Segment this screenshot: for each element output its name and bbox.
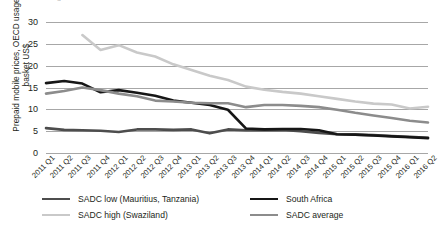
- y-tick-label-25: 25: [28, 39, 38, 48]
- legend-item[interactable]: SADC average: [250, 208, 343, 222]
- legend-swatch-line-icon: [42, 214, 70, 216]
- y-tick-label-5: 5: [33, 127, 38, 136]
- legend-swatch-line-icon: [250, 198, 278, 200]
- y-axis-tick-labels: 051015202530: [0, 22, 42, 153]
- legend-swatch-line-icon: [42, 198, 70, 200]
- y-tick-label-15: 15: [28, 83, 38, 92]
- legend-item-label: SADC low (Mauritius, Tanzania): [78, 194, 199, 204]
- legend-item[interactable]: SADC low (Mauritius, Tanzania): [42, 192, 199, 206]
- series-lines: [46, 22, 428, 153]
- legend-item[interactable]: South Africa: [250, 192, 332, 206]
- plot-area: [46, 22, 428, 153]
- y-tick-label-30: 30: [28, 18, 38, 27]
- y-tick-label-0: 0: [33, 149, 38, 158]
- legend-item-label: SADC average: [286, 210, 343, 220]
- x-axis-tick-labels: 2011 Q12011 Q22011 Q32011 Q42012 Q12012 …: [46, 154, 428, 194]
- y-tick-label-20: 20: [28, 61, 38, 70]
- y-tick-label-10: 10: [28, 105, 38, 114]
- chart-legend: SADC low (Mauritius, Tanzania)South Afri…: [42, 192, 436, 234]
- legend-swatch-line-icon: [250, 214, 278, 216]
- legend-item-label: South Africa: [286, 194, 332, 204]
- legend-item[interactable]: SADC high (Swaziland): [42, 208, 168, 222]
- legend-item-label: SADC high (Swaziland): [78, 210, 168, 220]
- clipped-title-fragment: g: [57, 0, 61, 1]
- series-line: [82, 35, 428, 108]
